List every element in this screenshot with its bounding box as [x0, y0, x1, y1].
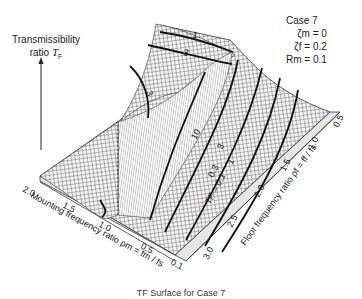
z-axis-arrow	[39, 57, 44, 150]
surface-plot: 1 3 3 10 3 1 0.3 TF = 0.1 2.0 1.5 1.0 0.…	[0, 0, 362, 299]
figure-caption: TF Surface for Case 7	[0, 288, 362, 298]
y-tick-3-0: 3.0	[201, 245, 216, 261]
